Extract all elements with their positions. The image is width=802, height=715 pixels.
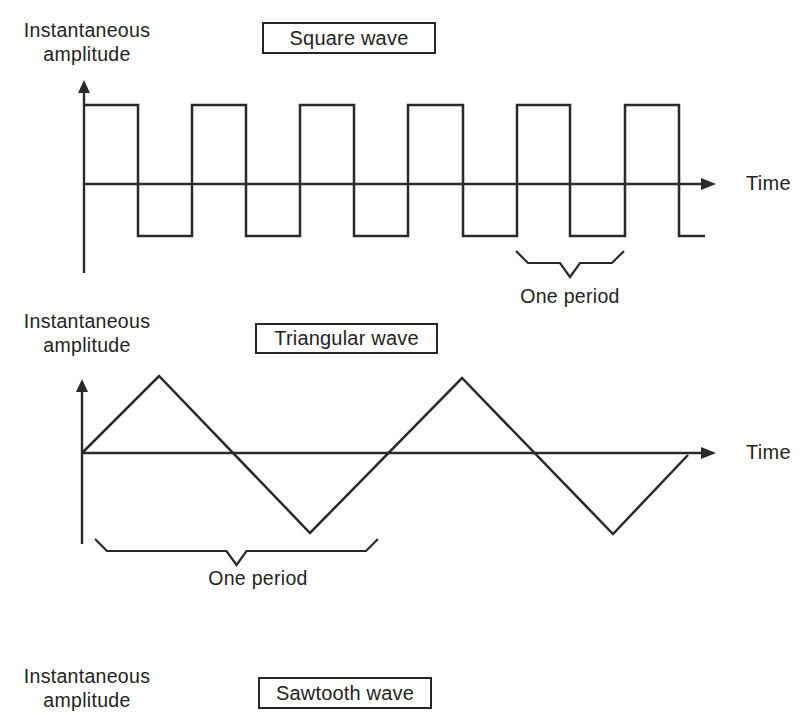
square-time-axis-arrow-icon [701, 178, 716, 190]
triangular-wave-plot [76, 376, 716, 565]
triangular-period-brace [95, 539, 378, 565]
waveform-diagram [0, 0, 802, 715]
square-period-brace [516, 251, 624, 277]
square-y-axis-arrow-icon [78, 80, 90, 93]
triangular-time-axis-arrow-icon [701, 447, 716, 459]
square-wave-trace [84, 105, 705, 236]
square-wave-plot [78, 80, 716, 277]
triangular-wave-trace [82, 376, 688, 534]
triangular-y-axis-arrow-icon [76, 379, 88, 392]
